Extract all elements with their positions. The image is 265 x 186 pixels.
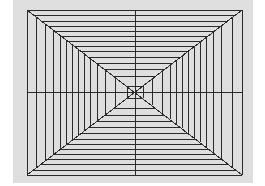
diagram-canvas <box>0 0 265 186</box>
perspective-tunnel-diagram <box>0 0 265 186</box>
tunnel-lines <box>27 10 242 175</box>
